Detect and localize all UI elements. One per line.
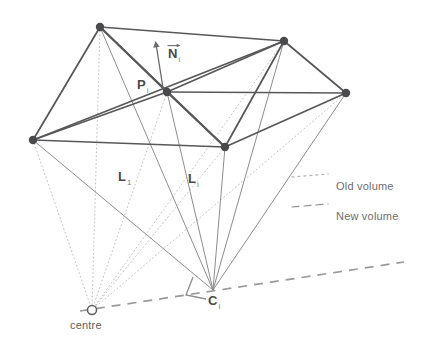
label-length-l2-subscript: i — [196, 180, 199, 189]
old-volume-ray-4 — [33, 140, 92, 310]
label-point-c: Ci — [208, 294, 220, 311]
label-centre: centre — [70, 320, 102, 331]
label-length-l1-subscript: 1 — [126, 178, 131, 187]
mesh-edges-group — [33, 27, 346, 147]
old-volume-ray-5 — [92, 92, 167, 310]
centre-point-marker — [88, 306, 97, 315]
diagram-canvas: Pi Ni L1 Li Ci centre Old volume New vol… — [0, 0, 429, 347]
old-volume-ray-3 — [92, 147, 225, 310]
label-point-c-base: C — [208, 293, 217, 308]
label-point-p-subscript: i — [146, 86, 149, 95]
v-left — [29, 136, 37, 144]
legend-label-old-volume: Old volume — [336, 181, 394, 192]
label-normal-n: Ni — [168, 47, 180, 64]
mesh-vertices-group — [29, 23, 350, 151]
vector-overbar-wrap: N — [168, 47, 177, 60]
mesh-edge-4 — [33, 27, 100, 140]
legend-label-new-volume: New volume — [336, 211, 399, 222]
label-length-l2: Li — [188, 172, 199, 189]
label-normal-n-base: N — [168, 46, 177, 61]
label-point-p-base: P — [137, 77, 146, 92]
mesh-edge-11 — [225, 41, 284, 147]
new-volume-rays-group — [33, 27, 346, 290]
v-top-left — [96, 23, 104, 31]
legend-swatch-1 — [292, 204, 328, 207]
legend-swatch-0 — [292, 174, 328, 177]
right-angle-mark — [186, 277, 206, 299]
dashed-horizon-axis — [80, 262, 404, 311]
old-volume-ray-2 — [92, 93, 346, 310]
label-length-l2-base: L — [188, 171, 196, 186]
dashed-axis-group — [80, 262, 404, 311]
mesh-edge-1 — [284, 41, 346, 93]
mesh-edge-0 — [100, 27, 284, 41]
new-volume-ray-5 — [167, 92, 213, 290]
label-point-c-subscript: i — [217, 302, 220, 311]
v-bottom-mid — [221, 143, 229, 151]
new-volume-ray-0 — [100, 27, 213, 290]
legend-swatches-group — [292, 174, 328, 207]
vector-arrow-icon — [167, 43, 181, 47]
right-angle-symbol — [186, 277, 206, 299]
centre-marker — [88, 306, 97, 315]
label-normal-n-subscript: i — [177, 55, 180, 64]
v-center-p — [163, 88, 171, 96]
old-volume-ray-0 — [92, 27, 100, 310]
label-length-l1-base: L — [118, 169, 126, 184]
v-top-right — [280, 37, 288, 45]
new-volume-ray-4 — [33, 140, 213, 290]
mesh-edge-3 — [33, 140, 225, 147]
v-right — [342, 89, 350, 97]
old-volume-rays-group — [33, 27, 346, 310]
label-point-p: Pi — [137, 78, 148, 95]
label-length-l1: L1 — [118, 170, 131, 187]
